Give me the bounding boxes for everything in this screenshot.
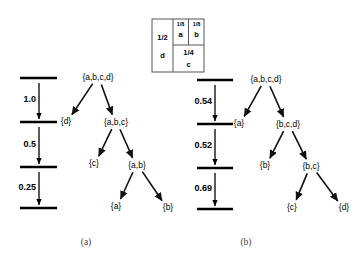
tree-node-label: {d} bbox=[339, 202, 350, 212]
tree-edge bbox=[120, 129, 133, 158]
partition-cell-left-letter: d bbox=[160, 51, 165, 60]
tree-node-label: {a,b,c,d} bbox=[82, 72, 113, 82]
partition-cell-left-fraction: 1/2 bbox=[157, 33, 167, 42]
tree-edge bbox=[270, 131, 284, 158]
caption-b: (b) bbox=[240, 237, 251, 248]
tree-node-label: {b} bbox=[260, 160, 271, 170]
scale-value-label: 1.0 bbox=[23, 94, 36, 104]
partition-box-diagram: 1/2 d 1/8 a 1/8 b 1/4 c bbox=[152, 19, 204, 72]
scale-value-label: 0.5 bbox=[23, 139, 36, 149]
partition-cell-b-letter: b bbox=[194, 30, 199, 39]
tree-node-label: {c} bbox=[89, 158, 99, 168]
scale-value-label: 0.54 bbox=[194, 96, 212, 106]
scale-b: 0.540.520.69 bbox=[194, 80, 233, 209]
scale-value-label: 0.69 bbox=[194, 183, 212, 193]
figure-canvas: 1/2 d 1/8 a 1/8 b 1/4 c {a,b,c,d}{d}{a,b… bbox=[0, 0, 362, 260]
partition-cell-c-letter: c bbox=[186, 60, 190, 69]
tree-edge bbox=[99, 129, 112, 156]
tree-node-label: {b,c} bbox=[302, 161, 319, 171]
tree-edge bbox=[292, 131, 306, 159]
tree-edge bbox=[317, 172, 338, 201]
partition-cell-a-fraction: 1/8 bbox=[177, 21, 185, 27]
tree-edge bbox=[142, 172, 162, 201]
tree-node-label: {a,b} bbox=[128, 160, 146, 170]
partition-cell-b-fraction: 1/8 bbox=[193, 21, 201, 27]
tree-node-label: {b,c,d} bbox=[276, 119, 300, 129]
tree-node-label: {c} bbox=[287, 202, 297, 212]
dendrogram-b: {a,b,c,d}{a}{b,c,d}{b}{b,c}{c}{d} 0.540.… bbox=[194, 74, 349, 212]
caption-a: (a) bbox=[81, 237, 92, 248]
partition-cell-a-letter: a bbox=[178, 30, 183, 39]
scale-value-label: 0.52 bbox=[194, 140, 212, 150]
dendrogram-a: {a,b,c,d}{d}{a,b,c}{c}{a,b}{a}{b} 1.00.5… bbox=[18, 72, 173, 212]
tree-edge bbox=[296, 173, 307, 199]
tree-edge bbox=[244, 86, 261, 116]
tree-b-nodes: {a,b,c,d}{a}{b,c,d}{b}{b,c}{c}{d} bbox=[234, 74, 350, 212]
tree-edge bbox=[101, 85, 112, 115]
tree-node-label: {a} bbox=[234, 118, 245, 128]
tree-node-label: {b} bbox=[163, 202, 174, 212]
scale-a: 1.00.50.25 bbox=[18, 78, 57, 208]
partition-cell-c-fraction: 1/4 bbox=[183, 48, 194, 57]
tree-b-edges bbox=[244, 86, 338, 201]
scale-value-label: 0.25 bbox=[18, 182, 36, 192]
tree-edge bbox=[270, 86, 284, 117]
tree-node-label: {a} bbox=[111, 201, 122, 211]
tree-edge bbox=[121, 172, 133, 199]
tree-edge bbox=[72, 84, 93, 115]
tree-node-label: {d} bbox=[61, 116, 72, 126]
tree-a-edges bbox=[72, 84, 162, 201]
tree-node-label: {a,b,c,d} bbox=[250, 74, 281, 84]
tree-node-label: {a,b,c} bbox=[104, 117, 128, 127]
